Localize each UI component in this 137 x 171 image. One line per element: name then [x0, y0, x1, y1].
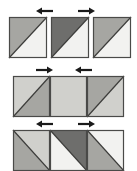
unit-3-2 — [50, 130, 87, 171]
unit-3-1 — [13, 130, 50, 171]
arrow-row3-right-shaft — [78, 123, 90, 125]
arrow-row3-left-shaft — [41, 123, 53, 125]
diagram-canvas — [0, 0, 137, 171]
unit-1-3 — [93, 17, 131, 58]
arrow-row2-right-shaft — [80, 69, 92, 71]
unit-2-1 — [13, 76, 50, 117]
pressing-diagram-figure — [0, 0, 137, 171]
unit-1-1 — [9, 17, 47, 58]
unit-2-2 — [50, 76, 87, 117]
unit-1-2 — [51, 17, 89, 58]
unit-3-3 — [87, 130, 124, 171]
unit-2-2-fill — [50, 76, 87, 117]
arrow-row2-left-shaft — [36, 69, 48, 71]
unit-2-3 — [87, 76, 124, 117]
arrow-row1-left-shaft — [41, 10, 53, 12]
arrow-row1-right-shaft — [78, 10, 90, 12]
